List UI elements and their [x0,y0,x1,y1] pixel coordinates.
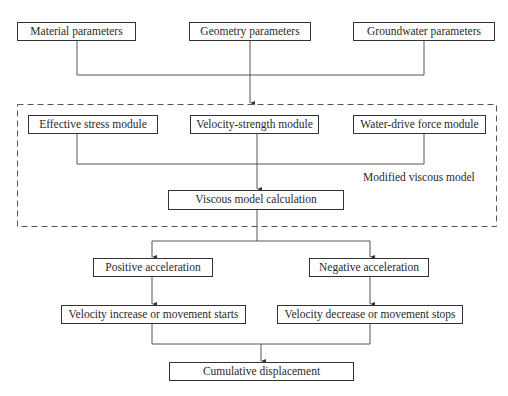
positive-acceleration-box: Positive acceleration [93,258,213,277]
cumulative-displacement-label: Cumulative displacement [203,366,320,378]
groundwater-parameters-box: Groundwater parameters [353,22,495,41]
negative-acceleration-label: Negative acceleration [319,262,419,274]
negative-acceleration-box: Negative acceleration [309,258,429,277]
positive-acceleration-label: Positive acceleration [105,262,200,274]
cumulative-displacement-box: Cumulative displacement [169,362,354,381]
geometry-parameters-label: Geometry parameters [200,26,299,38]
viscous-model-calculation-label: Viscous model calculation [195,194,316,206]
velocity-increase-label: Velocity increase or movement starts [69,309,239,321]
velocity-decrease-label: Velocity decrease or movement stops [284,309,455,321]
water-drive-force-module-label: Water-drive force module [360,119,478,131]
modified-viscous-model-label: Modified viscous model [363,171,475,183]
material-parameters-label: Material parameters [30,26,122,38]
velocity-strength-module-box: Velocity-strength module [190,115,319,134]
velocity-decrease-box: Velocity decrease or movement stops [277,305,463,324]
material-parameters-box: Material parameters [17,22,136,41]
viscous-model-calculation-box: Viscous model calculation [168,190,344,210]
geometry-parameters-box: Geometry parameters [189,22,311,41]
water-drive-force-module-box: Water-drive force module [353,115,486,134]
velocity-strength-module-label: Velocity-strength module [196,119,313,131]
groundwater-parameters-label: Groundwater parameters [367,26,481,38]
effective-stress-module-label: Effective stress module [39,119,147,131]
effective-stress-module-box: Effective stress module [28,115,158,134]
velocity-increase-box: Velocity increase or movement starts [61,305,246,324]
